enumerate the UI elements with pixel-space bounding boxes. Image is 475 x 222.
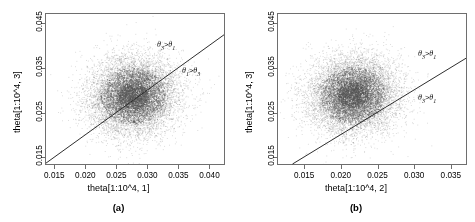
x-tick-b-2 bbox=[378, 165, 379, 169]
x-tick-label-b-4: 0.035 bbox=[441, 171, 462, 180]
y-axis-title-b: theta[1:10^4, 3] bbox=[244, 71, 254, 133]
x-tick-label-a-1: 0.020 bbox=[75, 171, 96, 180]
x-tick-label-b-2: 0.025 bbox=[367, 171, 388, 180]
annotation-a-lower: θ1>θ3 bbox=[182, 66, 200, 77]
y-tick-label-a-2: 0.035 bbox=[35, 52, 44, 80]
x-axis-title-b: theta[1:10^4, 2] bbox=[237, 183, 475, 193]
annotation-b-lower-text: θ3>θ1 bbox=[418, 93, 436, 102]
annotation-b-upper-text: θ3>θ1 bbox=[418, 49, 436, 58]
y-tick-label-a-3: 0.045 bbox=[35, 7, 44, 35]
point-cloud-b bbox=[278, 14, 466, 164]
x-tick-label-a-5: 0.040 bbox=[199, 171, 220, 180]
y-tick-label-b-2: 0.035 bbox=[267, 52, 276, 80]
plot-area-b: θ3>θ1 θ3>θ1 bbox=[277, 13, 467, 165]
point-cloud-a bbox=[46, 14, 224, 164]
x-tick-label-a-3: 0.030 bbox=[137, 171, 158, 180]
plot-area-a: θ3>θ1 θ1>θ3 bbox=[45, 13, 225, 165]
panel-caption-a: (a) bbox=[0, 202, 237, 213]
x-tick-label-a-0: 0.015 bbox=[44, 171, 65, 180]
x-tick-a-5 bbox=[209, 165, 210, 169]
y-tick-label-b-1: 0.025 bbox=[267, 97, 276, 125]
x-tick-b-4 bbox=[451, 165, 452, 169]
x-tick-label-b-3: 0.030 bbox=[404, 171, 425, 180]
x-tick-label-a-4: 0.035 bbox=[168, 171, 189, 180]
x-axis-title-a: theta[1:10^4, 1] bbox=[0, 183, 237, 193]
x-tick-a-1 bbox=[85, 165, 86, 169]
x-tick-label-a-2: 0.025 bbox=[106, 171, 127, 180]
x-tick-a-4 bbox=[178, 165, 179, 169]
panel-a: θ3>θ1 θ1>θ3 0.0150.0200.0250.0300.0350.0… bbox=[0, 0, 237, 222]
panel-b: θ3>θ1 θ3>θ1 0.0150.0200.0250.0300.035 0.… bbox=[237, 0, 475, 222]
annotation-b-lower: θ3>θ1 bbox=[418, 93, 436, 104]
annotation-a-lower-text: θ1>θ3 bbox=[182, 66, 200, 75]
y-tick-label-a-1: 0.025 bbox=[35, 97, 44, 125]
annotation-a-upper: θ3>θ1 bbox=[157, 40, 175, 51]
y-tick-label-a-0: 0.015 bbox=[35, 142, 44, 170]
x-tick-a-3 bbox=[147, 165, 148, 169]
annotation-b-upper: θ3>θ1 bbox=[418, 49, 436, 60]
figure-scatter-panels: θ3>θ1 θ1>θ3 0.0150.0200.0250.0300.0350.0… bbox=[0, 0, 475, 222]
x-tick-b-3 bbox=[414, 165, 415, 169]
x-tick-b-1 bbox=[341, 165, 342, 169]
x-tick-a-0 bbox=[54, 165, 55, 169]
x-tick-label-b-0: 0.015 bbox=[294, 171, 315, 180]
x-tick-label-b-1: 0.020 bbox=[331, 171, 352, 180]
panel-caption-b: (b) bbox=[237, 202, 475, 213]
y-tick-label-b-3: 0.045 bbox=[267, 7, 276, 35]
y-tick-label-b-0: 0.015 bbox=[267, 142, 276, 170]
annotation-a-upper-text: θ3>θ1 bbox=[157, 40, 175, 49]
x-tick-a-2 bbox=[116, 165, 117, 169]
y-axis-title-a: theta[1:10^4, 3] bbox=[12, 71, 22, 133]
x-tick-b-0 bbox=[304, 165, 305, 169]
